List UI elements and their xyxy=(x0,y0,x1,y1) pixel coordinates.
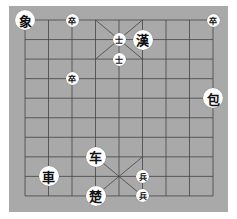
game-piece[interactable]: 卒 xyxy=(207,14,220,27)
game-piece[interactable]: 士 xyxy=(113,33,126,46)
game-piece[interactable]: 士 xyxy=(113,53,126,66)
game-piece[interactable]: 象 xyxy=(15,10,35,30)
game-piece[interactable]: 車 xyxy=(39,166,59,186)
game-piece[interactable]: 漢 xyxy=(133,30,153,50)
game-piece[interactable]: 车 xyxy=(86,147,106,167)
game-piece[interactable]: 卒 xyxy=(66,72,79,85)
game-piece[interactable]: 楚 xyxy=(86,186,106,206)
game-piece[interactable]: 兵 xyxy=(136,170,149,183)
game-piece[interactable]: 卒 xyxy=(66,14,79,27)
